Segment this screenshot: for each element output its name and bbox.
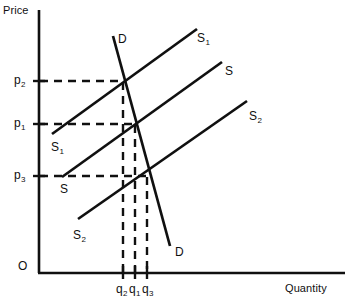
curve-label-supply-s1-top: S1 (197, 32, 210, 44)
curve-label-demand-bottom: D (175, 246, 184, 258)
price-tick-base-p2: p (14, 73, 21, 87)
curve-label-demand-top: D (118, 33, 127, 45)
curve-label-supply-s1-bottom-base: S (51, 140, 59, 154)
curve-label-supply-s2-bottom-base: S (73, 228, 81, 242)
supply-demand-figure: Price Quantity O p2 p1 p3 q2 q1 q3 D D S… (0, 0, 351, 304)
curve-supply-s2 (78, 101, 247, 219)
curve-label-supply-s-bottom: S (60, 183, 68, 195)
price-tick-sub-p2: 2 (21, 80, 26, 89)
curve-label-demand-top-base: D (118, 32, 127, 46)
price-tick-base-p3: p (14, 168, 21, 182)
curve-label-supply-s-bottom-base: S (60, 182, 68, 196)
curve-label-supply-s1-top-sub: 1 (205, 38, 210, 47)
curve-label-supply-s-top: S (225, 65, 233, 77)
demand-curve-group (113, 36, 170, 246)
price-tick-sub-p1: 1 (21, 123, 26, 132)
quantity-tick-sub-q3: 3 (149, 289, 154, 298)
curve-label-supply-s1-bottom-sub: 1 (59, 147, 64, 156)
price-tick-base-p1: p (14, 116, 21, 130)
quantity-tick-base-q1: q (129, 282, 136, 296)
price-tick-label-p1: p1 (14, 117, 25, 129)
quantity-tick-sub-q2: 2 (123, 289, 128, 298)
price-tick-label-p3: p3 (14, 169, 25, 181)
price-tick-sub-p3: 3 (21, 175, 26, 184)
curve-label-demand-bottom-base: D (175, 245, 184, 259)
quantity-tick-label-q3: q3 (142, 283, 153, 295)
curve-supply-s (62, 62, 222, 177)
curve-label-supply-s1-bottom: S1 (51, 141, 64, 153)
quantity-tick-base-q2: q (116, 282, 123, 296)
curve-demand-d (113, 36, 170, 246)
curve-label-supply-s2-top-sub: 2 (257, 116, 262, 125)
origin-label: O (18, 260, 27, 272)
y-axis-title: Price (3, 5, 29, 16)
x-axis-title: Quantity (285, 283, 327, 294)
price-guide-lines (40, 81, 148, 176)
quantity-tick-sub-q1: 1 (136, 289, 141, 298)
quantity-tick-label-q2: q2 (116, 283, 127, 295)
curve-label-supply-s2-top-base: S (249, 109, 257, 123)
quantity-tick-label-q1: q1 (129, 283, 140, 295)
curve-label-supply-s-top-base: S (225, 64, 233, 78)
price-tick-label-p2: p2 (14, 74, 25, 86)
supply-curves (52, 29, 247, 219)
quantity-tick-base-q3: q (142, 282, 149, 296)
curve-label-supply-s1-top-base: S (197, 31, 205, 45)
curve-label-supply-s2-bottom-sub: 2 (81, 235, 86, 244)
curve-label-supply-s2-top: S2 (249, 110, 262, 122)
curve-label-supply-s2-bottom: S2 (73, 229, 86, 241)
